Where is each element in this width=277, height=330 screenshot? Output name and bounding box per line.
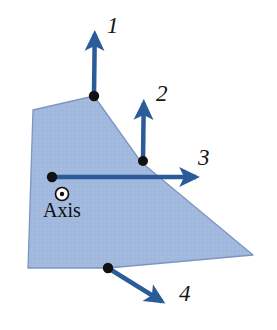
figure-container: 1 2 3 4 Axis — [0, 0, 277, 330]
force-1-application-point — [89, 91, 99, 101]
force-4-shaft — [108, 268, 162, 301]
force-1-label: 1 — [107, 13, 119, 38]
axis-center-dot-icon — [60, 192, 64, 196]
force-diagram: 1 2 3 4 Axis — [0, 0, 277, 330]
rigid-body-plate — [28, 96, 253, 268]
force-4-application-point — [103, 263, 113, 273]
force-vector-4: 4 — [103, 263, 191, 306]
force-3-label: 3 — [197, 145, 210, 170]
force-3-application-point — [47, 172, 57, 182]
force-vector-2: 2 — [138, 81, 168, 166]
force-2-application-point — [138, 156, 148, 166]
axis-label: Axis — [43, 199, 81, 221]
force-2-label: 2 — [156, 81, 168, 106]
force-vector-1: 1 — [89, 13, 119, 101]
force-1-shaft — [94, 34, 95, 96]
force-2-shaft — [143, 103, 144, 161]
force-4-label: 4 — [179, 281, 191, 306]
